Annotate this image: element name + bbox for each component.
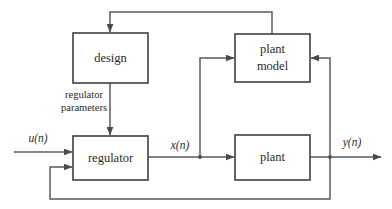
block-design[interactable]: design [73,33,148,83]
block-plant-model-label-line2: model [257,59,289,73]
block-plant-model-label-line1: plant [260,42,286,56]
block-plant[interactable]: plant [235,135,310,180]
wire-y-feedback-to-plant-model [311,58,330,157]
block-regulator-label: regulator [88,151,134,165]
diagram-canvas: design regulator plant model plant u(n) … [0,0,392,209]
annotation-regulator-parameters-line1: regulator [65,89,103,100]
block-diagram: design regulator plant model plant u(n) … [0,0,392,209]
junction-dot-x [198,155,202,159]
signal-label-state: x(n) [170,139,190,152]
block-plant-label: plant [260,150,286,164]
annotation-regulator-parameters-line2: parameters [61,102,107,113]
signal-label-output: y(n) [342,136,362,149]
block-regulator[interactable]: regulator [73,136,148,180]
wire-x-branch-to-plant-model [200,58,234,157]
block-plant-model[interactable]: plant model [235,34,310,82]
wire-plant-model-to-design [110,12,272,34]
block-design-label: design [94,51,127,65]
signal-label-input: u(n) [28,132,47,145]
